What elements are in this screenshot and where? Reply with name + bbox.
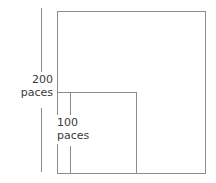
outer-dimension-label: 200 paces [0,72,53,101]
inner-dimension-value: 100 [57,116,89,129]
inner-dimension-unit: paces [57,129,89,142]
diagram-canvas: 200 paces 100 paces [0,0,216,183]
outer-dimension-unit: paces [0,86,53,99]
inner-dimension-label: 100 paces [57,115,91,144]
outer-dimension-value: 200 [0,73,53,86]
